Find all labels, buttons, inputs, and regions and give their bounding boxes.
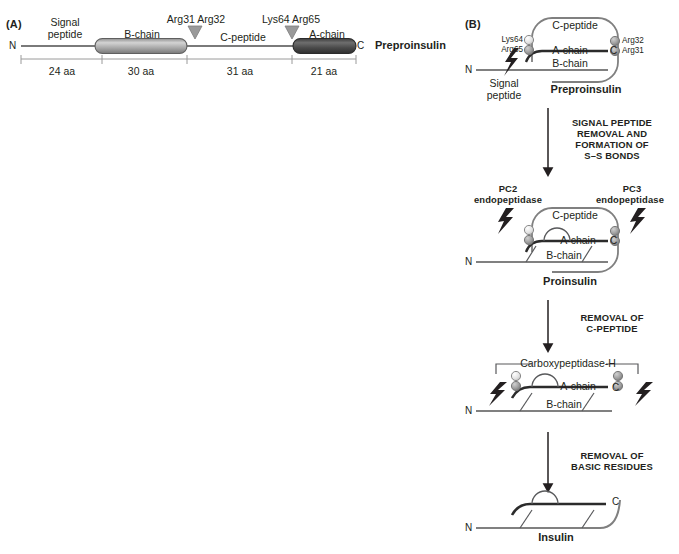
cleavage-bolt-right-icon xyxy=(635,382,653,406)
stage-1-name: Preproinsulin xyxy=(551,84,622,96)
stage-2-chain-label-a-chain: A-chain xyxy=(560,235,596,247)
stage-3-bracket-label: Carboxypeptidase-H xyxy=(520,358,616,370)
disulfide-bond-intra-a-chain xyxy=(532,374,558,387)
stage-4-name: Insulin xyxy=(538,532,573,544)
stage-2-enzyme-right-line2: endopeptidase xyxy=(596,194,664,205)
transition-1-line3: FORMATION OF xyxy=(575,139,649,150)
stage-3-chain-label-a-chain: A-chain xyxy=(560,381,596,393)
disulfide-bond-2 xyxy=(582,510,594,528)
residue-bead-right-upper xyxy=(613,371,622,380)
panel-a-bar-b-chain xyxy=(95,39,187,54)
stage-4-c-terminus: C xyxy=(612,496,619,508)
disulfide-bond-2 xyxy=(582,246,592,262)
residue-bead-arg65 xyxy=(524,45,533,54)
stage-1-signal-peptide-label-line1: Signal xyxy=(489,78,518,90)
residue-bead-lys64 xyxy=(524,35,533,44)
transition-1-line2: REMOVAL AND xyxy=(577,128,647,139)
disulfide-bond-1 xyxy=(520,510,532,528)
stage-2-enzyme-left-line2: endopeptidase xyxy=(474,194,542,205)
panel-a-cleavage-marker-lys64-arg65 xyxy=(285,26,299,39)
stage-3-chain-label-b-chain: B-chain xyxy=(546,399,582,411)
stage-1-residue-label-arg31: Arg31 xyxy=(622,46,644,55)
transition-1-line4: S–S BONDS xyxy=(584,150,640,161)
transition-3-line1: REMOVAL OF xyxy=(580,450,643,461)
stage-insulin xyxy=(476,491,620,528)
panel-a-ruler xyxy=(21,55,356,64)
residue-bead-left-upper xyxy=(511,371,520,380)
stage-2-chain-label-b-chain: B-chain xyxy=(546,250,582,262)
cleavage-bolt-left-icon xyxy=(489,382,507,406)
stage-1-residue-label-lys64: Lys64 xyxy=(501,35,523,44)
stage-2-enzyme-right-line1: PC3 xyxy=(623,183,642,194)
residue-bead-left-upper xyxy=(524,225,533,234)
stage-1-c-terminus: C xyxy=(610,45,617,57)
disulfide-bond-intra-a-chain xyxy=(532,491,558,504)
transition-2-line2: C-PEPTIDE xyxy=(586,323,637,334)
stage-2-chain-label-c-peptide: C-peptide xyxy=(552,210,598,222)
panel-a-bar-a-chain xyxy=(293,39,356,54)
pc2-cleavage-bolt-icon xyxy=(498,208,514,234)
residue-bead-left-lower xyxy=(524,235,533,244)
panel-a: (A) Signal peptide B-chain C-peptide A-c… xyxy=(0,0,460,100)
residue-bead-left-lower xyxy=(511,381,520,390)
stage-1-chain-label-a-chain: A-chain xyxy=(552,45,588,57)
stage-4-n-terminus: N xyxy=(465,522,472,534)
transition-2-line1: REMOVAL OF xyxy=(580,312,643,323)
transition-1-line1: SIGNAL PEPTIDE xyxy=(572,117,652,128)
stage-1-signal-peptide-label-line2: peptide xyxy=(487,90,521,102)
stage-1-residue-label-arg65: Arg65 xyxy=(501,45,523,54)
stage-1-chain-label-c-peptide: C-peptide xyxy=(552,20,598,32)
disulfide-bond-2 xyxy=(582,393,594,411)
pc3-cleavage-bolt-icon xyxy=(630,208,646,234)
disulfide-bond-1 xyxy=(520,393,532,411)
stage-2-n-terminus: N xyxy=(465,256,472,268)
panel-b: (B) xyxy=(460,0,679,554)
panel-a-cleavage-marker-arg31-arg32 xyxy=(188,26,202,39)
stage-1-chain-label-b-chain: B-chain xyxy=(552,58,588,70)
stage-3-c-terminus: C xyxy=(612,382,619,394)
transition-3-line2: BASIC RESIDUES xyxy=(571,461,653,472)
panel-a-diagram xyxy=(0,0,460,100)
stage-2-name: Proinsulin xyxy=(543,276,597,288)
stage-2-c-terminus: C xyxy=(610,235,617,247)
stage-2-enzyme-left-line1: PC2 xyxy=(499,183,518,194)
stage-3-n-terminus: N xyxy=(465,405,472,417)
stage-1-n-terminus: N xyxy=(465,64,472,76)
stage-1-residue-label-arg32: Arg32 xyxy=(622,36,644,45)
